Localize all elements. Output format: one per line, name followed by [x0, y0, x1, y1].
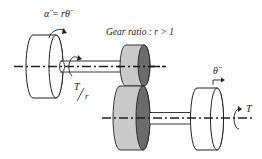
output-torque-arrowhead-icon	[238, 106, 242, 112]
input-torque-denominator: r	[85, 91, 89, 101]
small-gear	[120, 45, 150, 86]
right-inertia-disc	[191, 88, 224, 150]
output-torque-label: T	[246, 103, 253, 114]
gear-train-diagram: α̈ = rθ̈ Gear ratio : r > 1 T r θ̈ T	[0, 0, 262, 159]
input-acceleration-label: α̈ = rθ̈	[44, 8, 74, 19]
upper-shaft-rotation-arrowhead-icon	[77, 55, 82, 61]
left-disc-rotation-arrowhead-icon	[62, 28, 67, 34]
output-acceleration-label: θ̈	[213, 65, 222, 76]
input-torque-numerator: T	[74, 81, 81, 92]
output-torque-arrow-icon	[234, 109, 239, 129]
right-disc-rotation-arrow-icon	[213, 80, 222, 85]
gear-ratio-label: Gear ratio : r > 1	[106, 27, 174, 37]
right-disc-rotation-arrowhead-icon	[221, 78, 225, 83]
